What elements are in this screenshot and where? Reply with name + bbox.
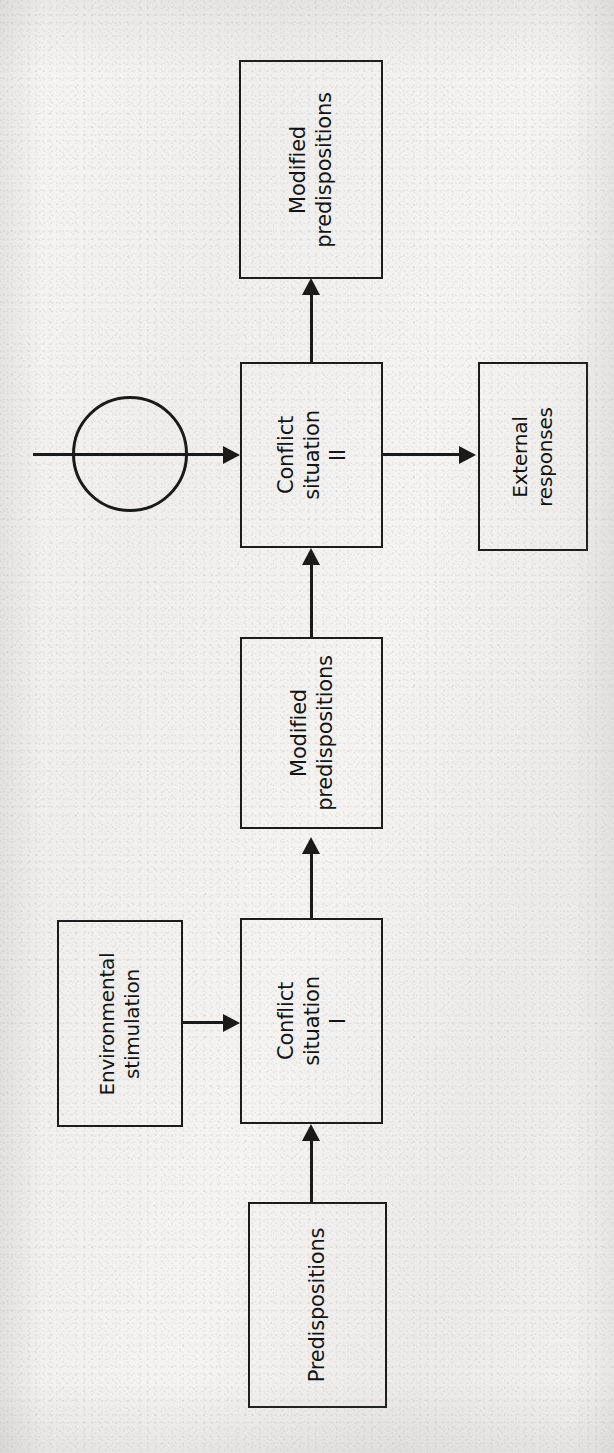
edge-conflict-2-to-external-responses xyxy=(383,453,461,456)
feedback-junction-circle xyxy=(72,396,188,512)
node-predispositions: Predispositions xyxy=(248,1202,387,1408)
arrowhead-up-icon xyxy=(302,278,320,295)
edge-conflict-2-to-modified-predispositions-top xyxy=(310,292,313,362)
bleed-through-text xyxy=(396,615,601,636)
node-external-responses: External responses xyxy=(478,362,588,551)
node-conflict-situation-1: Conflict situation I xyxy=(240,918,383,1124)
node-label: Predispositions xyxy=(305,1228,331,1383)
arrowhead-right-icon xyxy=(223,1014,240,1032)
scanned-page: Modified predispositions Conflict situat… xyxy=(0,0,614,1453)
node-label: Modified predispositions xyxy=(285,92,337,248)
node-environmental-stimulation: Environmental stimulation xyxy=(57,920,183,1127)
node-conflict-situation-2: Conflict situation II xyxy=(240,362,383,548)
edge-environmental-stimulation-to-conflict-1 xyxy=(183,1021,225,1024)
arrowhead-right-icon xyxy=(223,446,240,464)
bleed-through-text xyxy=(28,185,218,206)
bleed-through-text xyxy=(396,855,601,876)
node-label: Conflict situation II xyxy=(273,410,351,500)
node-label: Modified predispositions xyxy=(286,655,338,811)
node-label: Conflict situation I xyxy=(273,976,351,1066)
node-label: External responses xyxy=(508,407,558,506)
arrowhead-up-icon xyxy=(302,548,320,565)
edge-modified-predispositions-mid-to-conflict-2 xyxy=(310,562,313,638)
edge-predispositions-to-conflict-1 xyxy=(310,1138,313,1204)
arrowhead-right-icon xyxy=(459,446,476,464)
node-modified-predispositions-mid: Modified predispositions xyxy=(240,637,383,829)
node-label: Environmental stimulation xyxy=(95,952,145,1095)
bleed-through-text xyxy=(396,1225,601,1246)
node-modified-predispositions-top: Modified predispositions xyxy=(239,60,383,279)
edge-conflict-1-to-modified-predispositions-mid xyxy=(310,852,313,920)
arrowhead-up-icon xyxy=(302,837,320,854)
arrowhead-up-icon xyxy=(302,1124,320,1141)
